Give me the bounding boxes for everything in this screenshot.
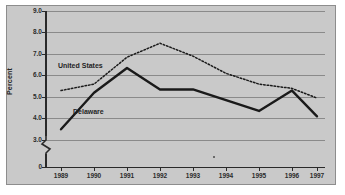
series-plot	[0, 0, 345, 195]
chart-figure: 9.0 8.0 7.0 6.0 5.0 4.0 3.0 0 Percent 19…	[0, 0, 345, 195]
series-label-united-states: United States	[58, 62, 103, 69]
series-label-delaware: Delaware	[73, 108, 104, 115]
line-delaware	[61, 68, 317, 129]
stray-speck	[213, 156, 215, 158]
